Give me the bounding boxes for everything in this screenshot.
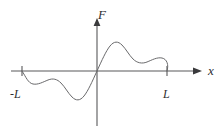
arrow-right-icon <box>193 68 202 75</box>
force-vs-position-figure: F x -L L <box>0 0 223 132</box>
tick-label-positive-L: L <box>163 88 170 100</box>
tick-label-negative-L: -L <box>10 88 21 100</box>
plot-canvas <box>0 0 223 132</box>
x-axis-label: x <box>208 64 214 77</box>
f-axis-label: F <box>98 8 106 21</box>
